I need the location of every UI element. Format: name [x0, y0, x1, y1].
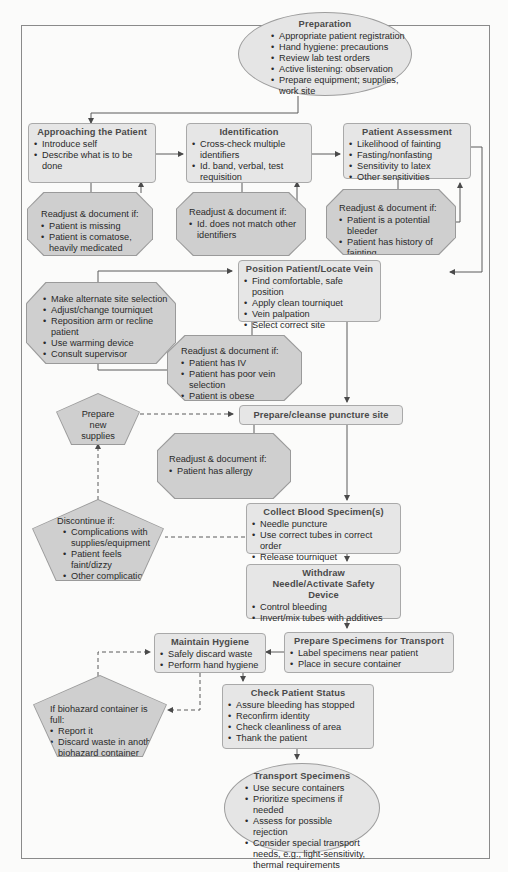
hygiene-title: Maintain Hygiene — [160, 637, 260, 648]
list-item: Patient has IV — [181, 358, 297, 369]
discontinue-list: Complications with supplies/equipment Pa… — [57, 527, 153, 582]
list-item: Use warming device — [43, 338, 171, 349]
list-item: Consider special transport needs, e.g., … — [245, 838, 369, 871]
approaching-list: Introduce self Describe what is to be do… — [34, 139, 150, 172]
list-item: Patient has poor vein selection — [181, 369, 297, 391]
list-item: Review lab test orders — [271, 53, 411, 64]
preparation-list: Appropriate patient registration Hand hy… — [271, 31, 411, 97]
approaching-title: Approaching the Patient — [34, 127, 150, 138]
identification-box: Identification Cross-check multiple iden… — [186, 123, 312, 183]
list-item: Reconfirm identity — [228, 711, 368, 722]
readjust-list: Patient has IV Patient has poor vein sel… — [181, 358, 297, 402]
check-status-box: Check Patient Status Assure bleeding has… — [222, 684, 374, 749]
list-item: Hand hygiene: precautions — [271, 42, 411, 53]
check-status-list: Assure bleeding has stopped Reconfirm id… — [228, 700, 368, 744]
preparation-title: Preparation — [239, 19, 411, 30]
list-item: Label specimens near patient — [290, 648, 448, 659]
position-list: Find comfortable, safe position Apply cl… — [244, 276, 375, 331]
identification-readjust-octagon: Readjust & document if: Id. does not mat… — [177, 193, 305, 255]
prepare-transport-list: Label specimens near patient Place in se… — [290, 648, 448, 670]
prepare-transport-title: Prepare Specimens for Transport — [290, 636, 448, 647]
hygiene-list: Safely discard waste Perform hand hygien… — [160, 649, 260, 671]
list-item: Thank the patient — [228, 733, 368, 744]
list-item: Assess for possible rejection — [245, 816, 369, 838]
readjust-heading: Readjust & document if: — [41, 209, 146, 220]
list-item: Patient is comatose, heavily medicated — [41, 232, 146, 254]
assessment-list: Likelihood of fainting Fasting/nonfastin… — [349, 139, 465, 183]
prepare-new-supplies-label: Prepare new supplies — [81, 409, 115, 441]
identification-title: Identification — [192, 127, 306, 138]
list-item: Check cleanliness of area — [228, 722, 368, 733]
list-item: Release tourniquet — [252, 552, 395, 563]
list-item: Adjust/change tourniquet — [43, 305, 171, 316]
list-item: Introduce self — [34, 139, 150, 150]
transport-title: Transport Specimens — [231, 771, 373, 782]
withdraw-title: Withdraw Needle/Activate Safety Device — [252, 568, 395, 601]
list-item: Sensitivity to latex — [349, 161, 465, 172]
list-item: Likelihood of fainting — [349, 139, 465, 150]
assessment-title: Patient Assessment — [349, 127, 465, 138]
list-item: Vein palpation — [244, 309, 375, 320]
readjust-heading: Readjust & document if: — [169, 454, 286, 465]
list-item: Patient feels faint/dizzy — [63, 549, 153, 571]
check-status-title: Check Patient Status — [228, 688, 368, 699]
list-item: Patient has allergy — [169, 466, 286, 477]
list-item: Select correct site — [244, 320, 375, 331]
alternatives-octagon: Make alternate site selection Adjust/cha… — [27, 283, 175, 363]
cleanse-title: Prepare/cleanse puncture site — [245, 410, 397, 421]
list-item: Use correct tubes in correct order — [252, 530, 395, 552]
list-item: Prepare equipment; supplies, work site — [271, 75, 411, 97]
collect-list: Needle puncture Use correct tubes in cor… — [252, 519, 395, 563]
readjust-list: Id. does not match other identifiers — [189, 219, 299, 241]
list-item: Patient is missing — [41, 221, 146, 232]
list-item: Report it — [50, 726, 160, 737]
list-item: Place in secure container — [290, 659, 448, 670]
list-item: Fasting/nonfasting — [349, 150, 465, 161]
hygiene-box: Maintain Hygiene Safely discard waste Pe… — [154, 633, 266, 673]
cleanse-readjust-octagon: Readjust & document if: Patient has alle… — [158, 434, 290, 498]
position-title: Position Patient/Locate Vein — [244, 264, 375, 275]
list-item: Complications with supplies/equipment — [63, 527, 153, 549]
list-item: Id. band, verbal, test requisition — [192, 161, 306, 183]
position-box: Position Patient/Locate Vein Find comfor… — [238, 260, 381, 322]
list-item: Describe what is to be done — [34, 150, 150, 172]
assessment-readjust-octagon: Readjust & document if: Patient is a pot… — [327, 190, 455, 254]
list-item: Reposition arm or recline patient — [43, 316, 171, 338]
identification-list: Cross-check multiple identifiers Id. ban… — [192, 139, 306, 183]
withdraw-box: Withdraw Needle/Activate Safety Device C… — [246, 564, 401, 619]
position-readjust-octagon: Readjust & document if: Patient has IV P… — [168, 336, 301, 400]
list-item: Other sensitivities — [349, 172, 465, 183]
readjust-heading: Readjust & document if: — [181, 346, 297, 357]
readjust-list: Patient is missing Patient is comatose, … — [41, 221, 146, 254]
assessment-box: Patient Assessment Likelihood of faintin… — [343, 123, 471, 179]
list-item: Invert/mix tubes with additives — [252, 613, 395, 624]
list-item: Prioritize specimens if needed — [245, 794, 369, 816]
list-item: Find comfortable, safe position — [244, 276, 375, 298]
transport-list: Use secure containers Prioritize specime… — [245, 783, 369, 871]
alternatives-list: Make alternate site selection Adjust/cha… — [43, 294, 171, 360]
list-item: Perform hand hygiene — [160, 660, 260, 671]
withdraw-list: Control bleeding Invert/mix tubes with a… — [252, 602, 395, 624]
biohazard-heading: If biohazard container is full: — [50, 704, 162, 726]
readjust-list: Patient has allergy — [169, 466, 286, 477]
approaching-readjust-octagon: Readjust & document if: Patient is missi… — [28, 193, 152, 255]
list-item: Needle puncture — [252, 519, 395, 530]
list-item: Assure bleeding has stopped — [228, 700, 368, 711]
readjust-heading: Readjust & document if: — [189, 207, 299, 218]
list-item: Control bleeding — [252, 602, 395, 613]
prepare-transport-box: Prepare Specimens for Transport Label sp… — [284, 632, 454, 673]
collect-box: Collect Blood Specimen(s) Needle punctur… — [246, 503, 401, 554]
collect-title: Collect Blood Specimen(s) — [252, 507, 395, 518]
list-item: Use secure containers — [245, 783, 369, 794]
readjust-heading: Readjust & document if: — [339, 203, 449, 214]
cleanse-box: Prepare/cleanse puncture site — [239, 405, 403, 425]
readjust-list: Patient is a potential bleeder Patient h… — [339, 215, 449, 259]
list-item: Id. does not match other identifiers — [189, 219, 299, 241]
list-item: Safely discard waste — [160, 649, 260, 660]
list-item: Appropriate patient registration — [271, 31, 411, 42]
list-item: Apply clean tourniquet — [244, 298, 375, 309]
list-item: Cross-check multiple identifiers — [192, 139, 306, 161]
list-item: Consult supervisor — [43, 349, 171, 360]
transport-ellipse: Transport Specimens Use secure container… — [224, 763, 380, 853]
list-item: Patient is a potential bleeder — [339, 215, 449, 237]
